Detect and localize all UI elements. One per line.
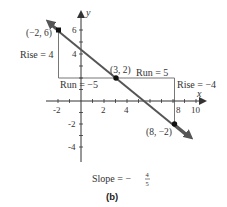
slope-numerator: 4 (146, 171, 150, 178)
x-tick-8: 8 (176, 105, 181, 115)
run-right-label: Run = 5 (136, 67, 168, 78)
point-label-8-neg2: (8, −2) (146, 127, 172, 138)
y-tick-neg2: -2 (68, 119, 76, 129)
y-tick-neg4: -4 (68, 142, 76, 152)
point-label-3-2: (3, 2) (110, 65, 131, 76)
slope-denominator: 5 (146, 180, 149, 187)
rise-right-label: Rise = −4 (177, 79, 216, 90)
run-left-label: Run = −5 (60, 79, 98, 90)
point-label-neg2-6: (−2, 6) (26, 28, 52, 39)
rise-left-label: Rise = 4 (20, 49, 53, 60)
line-arrow-down (175, 124, 192, 138)
slope-formula: Slope = − 4 5 (92, 171, 150, 187)
figure-caption: (b) (106, 191, 118, 202)
slope-diagram: x -2 2 4 8 10 y 6 4 -2 -4 (−2, (0, 0, 227, 207)
x-tick-neg2: -2 (53, 105, 61, 115)
point-8-neg2 (172, 121, 177, 126)
x-tick-10: 10 (191, 105, 201, 115)
point-neg2-6 (56, 28, 61, 33)
x-tick-2: 2 (101, 105, 106, 115)
y-tick-4: 4 (72, 49, 77, 59)
slope-prefix: Slope = − (92, 173, 131, 184)
y-axis-label: y (85, 7, 91, 18)
x-tick-4: 4 (124, 105, 129, 115)
y-tick-6: 6 (72, 25, 77, 35)
point-3-2 (113, 75, 118, 80)
x-axis: x -2 2 4 8 10 (46, 88, 205, 115)
